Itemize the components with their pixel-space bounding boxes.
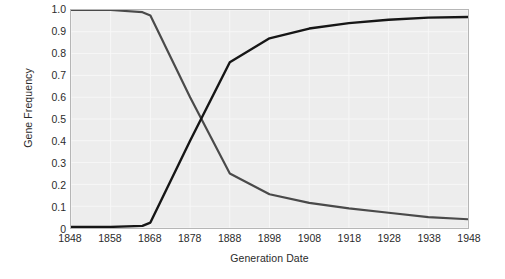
y-tick-label: 0.7 bbox=[24, 70, 66, 81]
y-tick-label: 0.8 bbox=[24, 48, 66, 59]
y-tick-label: 1.0 bbox=[24, 4, 66, 15]
y-tick-label: 0.5 bbox=[24, 114, 66, 125]
x-tick-label: 1848 bbox=[58, 233, 81, 245]
x-tick-label: 1888 bbox=[218, 233, 241, 245]
data-lines bbox=[71, 10, 468, 228]
y-tick-label: 0.2 bbox=[24, 180, 66, 191]
x-tick-label: 1868 bbox=[138, 233, 161, 245]
x-tick-label: 1898 bbox=[258, 233, 281, 245]
y-tick-label: 0.1 bbox=[24, 202, 66, 213]
x-axis-tick-labels: 1848185818681878188818981908191819281938… bbox=[70, 233, 469, 249]
x-tick-label: 1948 bbox=[457, 233, 480, 245]
x-tick-label: 1918 bbox=[338, 233, 361, 245]
plot-area bbox=[70, 9, 469, 229]
x-tick-label: 1858 bbox=[98, 233, 121, 245]
x-tick-label: 1928 bbox=[378, 233, 401, 245]
x-tick-label: 1878 bbox=[178, 233, 201, 245]
y-tick-label: 0.3 bbox=[24, 158, 66, 169]
y-tick-label: 0.4 bbox=[24, 136, 66, 147]
y-tick-label: 0.9 bbox=[24, 26, 66, 37]
x-tick-label: 1938 bbox=[417, 233, 440, 245]
x-axis-label: Generation Date bbox=[70, 252, 469, 264]
x-tick-label: 1908 bbox=[298, 233, 321, 245]
gene-frequency-chart: Gene Frequency 1.00.90.80.70.60.50.40.30… bbox=[0, 0, 505, 279]
y-axis-tick-labels: 1.00.90.80.70.60.50.40.30.20.10 bbox=[24, 9, 66, 229]
y-tick-label: 0.6 bbox=[24, 92, 66, 103]
series-line bbox=[71, 17, 468, 227]
series-line bbox=[71, 10, 468, 219]
